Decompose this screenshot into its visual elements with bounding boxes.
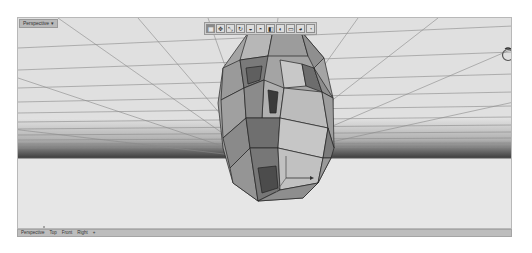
artistic-tool-button[interactable]: ◕: [296, 24, 305, 33]
move-tool-button[interactable]: ✥: [216, 24, 225, 33]
add-tab-button[interactable]: +: [93, 230, 96, 236]
transform-tool-button[interactable]: ⤡: [226, 24, 235, 33]
tab-front[interactable]: Front: [62, 230, 73, 236]
head-mesh[interactable]: [218, 30, 334, 201]
tab-top[interactable]: Top: [50, 230, 57, 236]
rotate-tool-button[interactable]: ↻: [236, 24, 245, 33]
shaded-tool-button[interactable]: ◒: [246, 24, 255, 33]
xray-tool-button[interactable]: ◐: [276, 24, 285, 33]
scene-canvas[interactable]: [18, 18, 512, 229]
tab-perspective[interactable]: Perspective: [21, 230, 45, 236]
tab-right[interactable]: Right: [77, 230, 88, 236]
display-mode-toolbar: ▦ ✥ ⤡ ↻ ◒ ◓ ◧ ◐ ▭ ◕ ◔: [204, 22, 317, 35]
ghosted-tool-button[interactable]: ◧: [266, 24, 275, 33]
rendered-tool-button[interactable]: ◓: [256, 24, 265, 33]
pen-tool-button[interactable]: ◔: [306, 24, 315, 33]
perspective-viewport[interactable]: Perspective ▾: [17, 17, 512, 229]
rotate-view-gizmo-icon[interactable]: [500, 46, 512, 62]
viewport-title-menu[interactable]: Perspective ▾: [19, 19, 58, 28]
viewport-tabs: Perspective Top Front Right +: [17, 229, 512, 237]
technical-tool-button[interactable]: ▭: [286, 24, 295, 33]
wireframe-tool-button[interactable]: ▦: [206, 24, 215, 33]
